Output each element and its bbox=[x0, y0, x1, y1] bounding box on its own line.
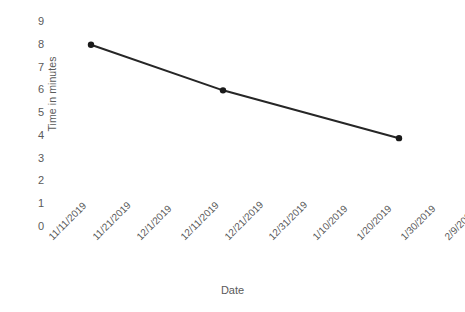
data-point-marker bbox=[220, 87, 226, 93]
data-point-marker bbox=[396, 135, 402, 141]
x-axis-title: Date bbox=[0, 284, 465, 296]
line-chart: Time in minutes 0123456789 11/11/201911/… bbox=[0, 0, 465, 312]
data-point-marker bbox=[88, 42, 94, 48]
plot-area bbox=[0, 0, 465, 312]
series-line bbox=[91, 45, 399, 138]
